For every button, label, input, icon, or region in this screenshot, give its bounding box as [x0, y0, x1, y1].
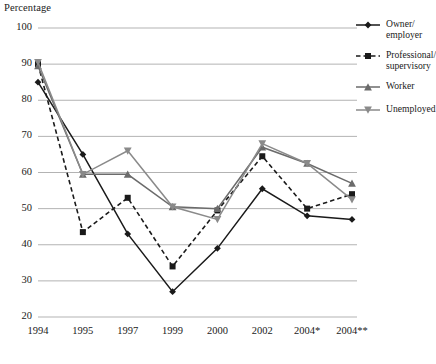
series-line — [38, 62, 352, 219]
data-point-marker — [258, 140, 266, 147]
x-axis-tick-label: 2000 — [192, 325, 242, 336]
legend-key-diamond-icon — [355, 18, 381, 32]
legend-key-square-icon — [355, 49, 381, 63]
x-axis-tick-label: 2004** — [327, 325, 377, 336]
data-point-marker — [304, 206, 310, 212]
data-point-marker — [365, 53, 371, 59]
data-point-marker — [348, 196, 356, 203]
series-line — [38, 82, 352, 292]
data-point-marker — [349, 216, 356, 223]
legend-item[interactable]: Professional/supervisory — [355, 49, 435, 71]
x-axis-tick-label: 1994 — [13, 325, 63, 336]
series-worker — [34, 62, 356, 212]
y-axis-tick-label: 50 — [2, 202, 32, 213]
series-line — [38, 66, 352, 209]
y-axis-tick-label: 80 — [2, 93, 32, 104]
data-point-marker — [348, 180, 356, 187]
y-axis-tick-label: 60 — [2, 166, 32, 177]
y-axis-tick-label: 30 — [2, 274, 32, 285]
legend-key-triangle-down-icon — [355, 103, 381, 117]
legend-item-label: Professional/supervisory — [386, 49, 436, 71]
data-point-marker — [214, 216, 222, 223]
x-axis-tick-label: 2004* — [282, 325, 332, 336]
legend-item-label: Unemployed — [386, 103, 436, 115]
y-axis-tick-label: 100 — [2, 21, 32, 32]
y-axis-tick-label: 20 — [2, 310, 32, 321]
series-unemployed — [34, 59, 356, 223]
chart-legend: Owner/employerProfessional/supervisoryWo… — [355, 18, 435, 126]
data-point-marker — [80, 229, 86, 235]
x-axis-tick-label: 1999 — [148, 325, 198, 336]
legend-item[interactable]: Worker — [355, 80, 435, 94]
y-axis-tick-label: 90 — [2, 57, 32, 68]
data-point-marker — [259, 153, 265, 159]
y-axis-tick-label: 40 — [2, 238, 32, 249]
legend-item[interactable]: Owner/employer — [355, 18, 435, 40]
legend-key-triangle-up-icon — [355, 80, 381, 94]
data-point-marker — [125, 195, 131, 201]
y-axis-tick-label: 70 — [2, 129, 32, 140]
data-point-marker — [304, 212, 311, 219]
data-point-marker — [170, 263, 176, 269]
x-axis-tick-label: 2002 — [237, 325, 287, 336]
data-point-marker — [79, 151, 86, 158]
legend-item-label: Owner/employer — [386, 18, 422, 40]
x-axis-tick-label: 1997 — [103, 325, 153, 336]
legend-item[interactable]: Unemployed — [355, 103, 435, 117]
legend-item-label: Worker — [386, 80, 415, 92]
data-point-marker — [35, 79, 42, 86]
x-axis-tick-label: 1995 — [58, 325, 108, 336]
data-point-marker — [365, 22, 372, 29]
series-owner-employer — [35, 79, 356, 295]
